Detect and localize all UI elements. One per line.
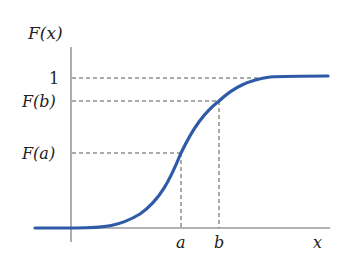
tick-label-one: 1 bbox=[49, 69, 59, 88]
y-axis-label: F(x) bbox=[27, 23, 63, 43]
chart-canvas: F(x) 1 F(b) F(a) a b x bbox=[0, 0, 345, 274]
tick-label-fb: F(b) bbox=[21, 92, 56, 111]
cdf-chart: F(x) 1 F(b) F(a) a b x bbox=[0, 0, 345, 274]
tick-label-b: b bbox=[214, 233, 224, 252]
tick-label-fa: F(a) bbox=[21, 144, 55, 163]
x-axis-label: x bbox=[313, 233, 322, 252]
tick-label-a: a bbox=[176, 233, 186, 252]
